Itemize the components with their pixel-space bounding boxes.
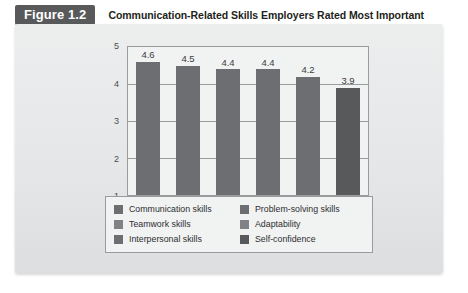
bar-slot: 4.6 — [128, 47, 168, 195]
legend-item: Adaptability — [240, 217, 366, 232]
bar-slot: 4.4 — [248, 47, 288, 195]
bar — [336, 88, 359, 195]
legend-swatch-icon — [240, 205, 249, 214]
legend-swatch-icon — [114, 205, 123, 214]
bar-value-label: 4.4 — [248, 58, 288, 68]
bar-slot: 3.9 — [328, 47, 368, 195]
y-axis: 12345 — [97, 46, 123, 196]
legend-label: Adaptability — [255, 220, 300, 229]
legend-item: Self-confidence — [240, 232, 366, 247]
y-axis-tick-label: 4 — [114, 79, 119, 88]
bar-value-label: 4.2 — [288, 65, 328, 75]
y-axis-tick-label: 5 — [114, 42, 119, 51]
legend-swatch-icon — [240, 235, 249, 244]
bar — [216, 69, 239, 195]
y-axis-tick-label: 2 — [114, 154, 119, 163]
bar — [176, 66, 199, 196]
bars-container: 4.64.54.44.44.23.9 — [128, 47, 368, 195]
legend-item: Problem-solving skills — [240, 202, 366, 217]
bar-value-label: 3.9 — [328, 76, 368, 86]
legend-swatch-icon — [240, 220, 249, 229]
figure-card: 12345 4.64.54.44.44.23.9 Communication s… — [15, 24, 443, 273]
chart-legend: Communication skillsTeamwork skillsInter… — [105, 196, 373, 253]
bar-value-label: 4.6 — [128, 50, 168, 60]
figure-title: Communication-Related Skills Employers R… — [108, 9, 424, 21]
legend-swatch-icon — [114, 220, 123, 229]
figure-header: Figure 1.2 Communication-Related Skills … — [15, 4, 443, 26]
bar-slot: 4.2 — [288, 47, 328, 195]
legend-column-left: Communication skillsTeamwork skillsInter… — [114, 202, 240, 247]
legend-item: Interpersonal skills — [114, 232, 240, 247]
bar — [136, 62, 159, 195]
y-axis-tick-label: 3 — [114, 117, 119, 126]
legend-swatch-icon — [114, 235, 123, 244]
bar-value-label: 4.5 — [168, 54, 208, 64]
legend-label: Self-confidence — [255, 235, 316, 244]
bar-slot: 4.4 — [208, 47, 248, 195]
legend-item: Communication skills — [114, 202, 240, 217]
legend-label: Communication skills — [129, 205, 212, 214]
bar-value-label: 4.4 — [208, 58, 248, 68]
figure-number-badge: Figure 1.2 — [15, 5, 95, 25]
legend-column-right: Problem-solving skillsAdaptabilitySelf-c… — [240, 202, 366, 247]
bar-chart: 12345 4.64.54.44.44.23.9 — [97, 42, 373, 217]
bar — [296, 77, 319, 195]
legend-label: Interpersonal skills — [129, 235, 202, 244]
bar — [256, 69, 279, 195]
bar-slot: 4.5 — [168, 47, 208, 195]
legend-label: Teamwork skills — [129, 220, 191, 229]
legend-label: Problem-solving skills — [255, 205, 340, 214]
legend-item: Teamwork skills — [114, 217, 240, 232]
figure-card-surface: 12345 4.64.54.44.44.23.9 Communication s… — [15, 24, 443, 273]
